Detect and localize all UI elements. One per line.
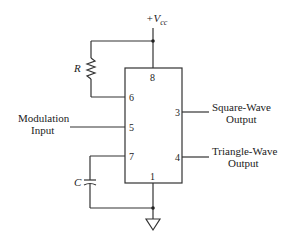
capacitor-label: C	[74, 176, 82, 188]
triangle-wave-output-label-line1: Triangle-Wave	[212, 145, 277, 157]
pin-5-label: 5	[129, 122, 134, 133]
triangle-wave-output-label-line2: Output	[228, 157, 259, 169]
resistor-label: R	[73, 62, 81, 74]
pin-7-label: 7	[129, 151, 134, 162]
pin-4-label: 4	[175, 152, 180, 163]
resistor-icon	[87, 58, 95, 79]
pin-3-label: 3	[175, 107, 180, 118]
pin-8-label: 8	[150, 72, 155, 83]
vcc-junction-dot	[151, 39, 155, 43]
pin-6-label: 6	[129, 92, 134, 103]
vcc-label: +Vcc	[146, 12, 168, 27]
square-wave-output-label-line2: Output	[226, 113, 257, 125]
ground-icon	[146, 219, 160, 230]
ground-junction-dot	[151, 206, 155, 210]
square-wave-output-label-line1: Square-Wave	[212, 101, 271, 113]
pin-1-label: 1	[150, 171, 155, 182]
modulation-input-label-line1: Modulation	[18, 112, 70, 124]
modulation-input-label-line2: Input	[31, 124, 54, 136]
circuit-diagram: +Vcc R C 8 6 5 7 1 3 4 Modulation Input …	[0, 0, 292, 247]
